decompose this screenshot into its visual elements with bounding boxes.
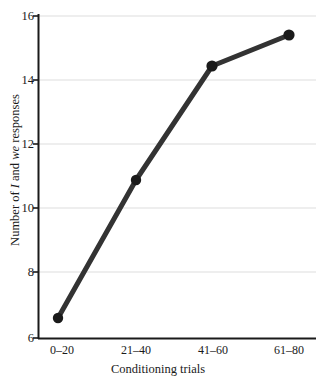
data-point-41-60	[206, 60, 217, 71]
data-point-61-80	[283, 29, 294, 40]
data-point-0-20	[53, 313, 63, 323]
data-point-21-40	[131, 175, 141, 185]
chart-figure: Number of I and we responses 16 14 12 10…	[0, 0, 316, 379]
y-axis-ticks	[33, 16, 38, 338]
data-line-series	[58, 35, 289, 318]
gridlines	[38, 16, 316, 272]
plot-area	[0, 0, 316, 379]
data-point-markers	[53, 29, 295, 323]
